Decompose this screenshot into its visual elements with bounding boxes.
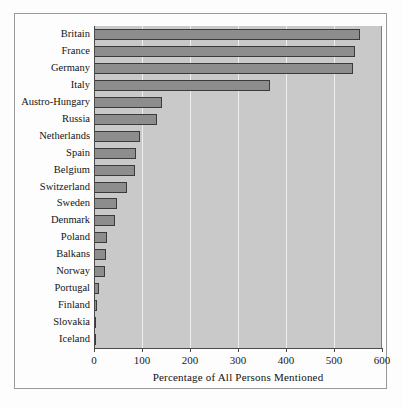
- x-tick-label-500: 500: [314, 354, 354, 367]
- y-axis-label-balkans: Balkans: [0, 248, 90, 260]
- bar-row: [94, 297, 381, 315]
- bar-italy: [94, 80, 270, 91]
- x-axis-title: Percentage of All Persons Mentioned: [94, 371, 382, 383]
- y-axis-label-austro-hungary: Austro-Hungary: [0, 96, 90, 108]
- y-axis-label-britain: Britain: [0, 28, 90, 40]
- bar-switzerland: [94, 182, 127, 193]
- bar-netherlands: [94, 131, 140, 142]
- bar-row: [94, 60, 381, 78]
- x-tick-label-0: 0: [74, 354, 114, 367]
- bar-row: [94, 331, 381, 348]
- bar-row: [94, 162, 381, 180]
- x-tick-0: [94, 348, 95, 352]
- x-tick-label-600: 600: [362, 354, 402, 367]
- y-axis-label-iceland: Iceland: [0, 333, 90, 345]
- x-tick-300: [238, 348, 239, 352]
- bar-spain: [94, 148, 136, 159]
- y-axis-label-spain: Spain: [0, 147, 90, 159]
- bar-france: [94, 46, 355, 57]
- bar-row: [94, 280, 381, 298]
- y-axis-label-netherlands: Netherlands: [0, 130, 90, 142]
- y-axis-label-italy: Italy: [0, 79, 90, 91]
- x-tick-600: [382, 348, 383, 352]
- bar-row: [94, 111, 381, 129]
- y-axis-spine: [94, 26, 95, 349]
- bar-austro-hungary: [94, 97, 162, 108]
- bar-norway: [94, 266, 105, 277]
- bar-row: [94, 145, 381, 163]
- bar-row: [94, 128, 381, 146]
- x-tick-400: [286, 348, 287, 352]
- bar-balkans: [94, 249, 106, 260]
- y-axis-label-germany: Germany: [0, 62, 90, 74]
- y-axis-label-portugal: Portugal: [0, 282, 90, 294]
- y-axis-label-slovakia: Slovakia: [0, 316, 90, 328]
- bar-russia: [94, 114, 157, 125]
- y-axis-label-russia: Russia: [0, 113, 90, 125]
- x-tick-500: [334, 348, 335, 352]
- plot-area: [94, 26, 382, 348]
- bar-chart-figure: 0100200300400500600 BritainFranceGermany…: [0, 0, 403, 409]
- x-tick-200: [190, 348, 191, 352]
- y-axis-label-france: France: [0, 45, 90, 57]
- bar-row: [94, 229, 381, 247]
- bar-germany: [94, 63, 353, 74]
- bar-row: [94, 314, 381, 332]
- y-axis-label-sweden: Sweden: [0, 197, 90, 209]
- y-axis-label-norway: Norway: [0, 265, 90, 277]
- bar-row: [94, 195, 381, 213]
- bar-row: [94, 94, 381, 112]
- y-axis-label-finland: Finland: [0, 299, 90, 311]
- bar-britain: [94, 29, 360, 40]
- bar-poland: [94, 232, 107, 243]
- y-axis-label-poland: Poland: [0, 231, 90, 243]
- x-tick-label-100: 100: [122, 354, 162, 367]
- y-axis-label-belgium: Belgium: [0, 164, 90, 176]
- x-tick-label-400: 400: [266, 354, 306, 367]
- bar-row: [94, 179, 381, 197]
- bar-row: [94, 43, 381, 61]
- bar-belgium: [94, 165, 135, 176]
- bar-sweden: [94, 198, 117, 209]
- bar-row: [94, 263, 381, 281]
- x-tick-label-300: 300: [218, 354, 258, 367]
- bar-row: [94, 212, 381, 230]
- bar-row: [94, 77, 381, 95]
- bar-row: [94, 246, 381, 264]
- x-tick-100: [142, 348, 143, 352]
- y-axis-label-switzerland: Switzerland: [0, 181, 90, 193]
- bar-row: [94, 26, 381, 44]
- bar-denmark: [94, 215, 115, 226]
- y-axis-label-denmark: Denmark: [0, 214, 90, 226]
- x-tick-label-200: 200: [170, 354, 210, 367]
